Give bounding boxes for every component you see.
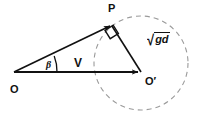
label-sqrt-gd: √ gd [147, 32, 170, 45]
angle-arc-beta [54, 56, 57, 72]
label-point-p: P [108, 3, 115, 14]
label-point-o: O [10, 84, 19, 95]
label-vector-v: V [74, 57, 82, 69]
diagram-canvas [0, 0, 198, 121]
vector-diagram: O P O′ V β √ gd [0, 0, 198, 121]
segment-p-to-o-prime [112, 26, 141, 72]
label-point-o-prime: O′ [145, 76, 156, 87]
label-angle-beta: β [46, 60, 51, 70]
label-radicand: gd [154, 32, 169, 45]
dashed-circle [94, 16, 188, 110]
segment-op [14, 26, 110, 72]
radical-sign-icon: √ [147, 32, 154, 47]
